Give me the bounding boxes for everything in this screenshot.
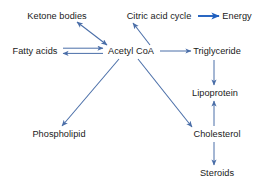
node-energy: Energy bbox=[222, 11, 251, 22]
node-acetyl-coa: Acetyl CoA bbox=[108, 46, 154, 57]
node-steroids: Steroids bbox=[200, 168, 234, 179]
node-lipoprotein: Lipoprotein bbox=[192, 88, 238, 99]
metabolism-pathway-diagram: Ketone bodies Citric acid cycle Energy F… bbox=[0, 0, 267, 187]
node-fatty-acids: Fatty acids bbox=[13, 46, 58, 57]
node-triglyceride: Triglyceride bbox=[193, 46, 241, 57]
edge-acetyl-citric bbox=[133, 23, 150, 45]
node-phospholipid: Phospholipid bbox=[32, 129, 85, 140]
node-citric-acid-cycle: Citric acid cycle bbox=[127, 11, 192, 22]
edge-ketone-acetyl bbox=[77, 22, 107, 45]
node-cholesterol: Cholesterol bbox=[193, 129, 240, 140]
edge-acetyl-phospholipid bbox=[62, 59, 119, 126]
node-ketone-bodies: Ketone bodies bbox=[27, 11, 86, 22]
edge-acetyl-cholesterol bbox=[138, 59, 192, 127]
